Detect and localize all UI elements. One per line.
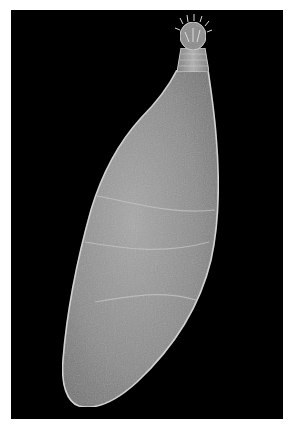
specimen-head-bristles	[175, 14, 212, 50]
specimen-illustration	[11, 10, 283, 419]
micrograph-panel	[11, 10, 283, 419]
figure-caption	[8, 423, 283, 429]
specimen-body	[63, 70, 219, 407]
